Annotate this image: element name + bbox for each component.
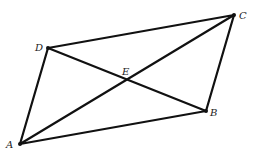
segment-db (48, 48, 206, 111)
point-label-a: A (6, 140, 13, 150)
point-label-b: B (210, 108, 217, 118)
vertex-d (46, 46, 50, 50)
diagram-canvas: A B C D E (0, 0, 253, 155)
point-label-c: C (239, 11, 247, 21)
point-label-d: D (35, 43, 43, 53)
vertex-a (18, 142, 22, 146)
vertex-b (204, 109, 208, 113)
parallelogram-figure (0, 0, 253, 155)
point-label-e: E (122, 67, 129, 77)
vertex-c (232, 13, 236, 17)
